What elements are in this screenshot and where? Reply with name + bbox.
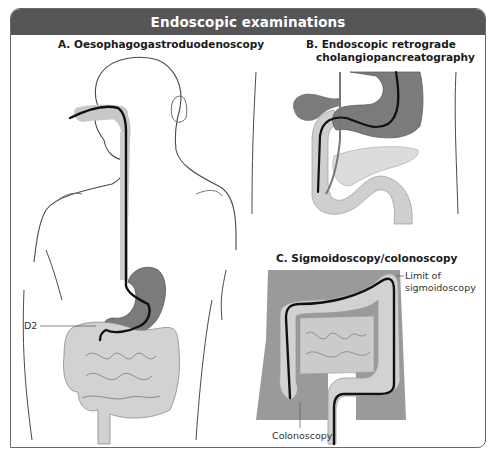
panel-c-title: C. Sigmoidoscopy/colonoscopy (276, 252, 457, 265)
panel-a-illustration (23, 57, 236, 444)
ear (171, 96, 186, 122)
small-and-large-intestine (64, 322, 180, 444)
d2-label: D2 (24, 320, 37, 331)
head-body-outline (95, 57, 236, 250)
limit-label-line1: Limit of (405, 270, 441, 281)
panel-b-title-line1: B. Endoscopic retrograde (306, 38, 456, 51)
flank-left (252, 72, 256, 214)
neck-left-outline (34, 140, 126, 262)
limit-label-line2: sigmoidoscopy (405, 282, 476, 293)
panel-a-title: A. Oesophagogastroduodenoscopy (58, 38, 264, 51)
panel-c-illustration (256, 270, 406, 444)
torso-lines (58, 190, 222, 200)
colonoscopy-label: Colonoscopy (272, 430, 332, 441)
flank-right (455, 72, 458, 214)
anatomy-illustrations (0, 0, 494, 458)
panel-b-title-line2: cholangiopancreatography (316, 51, 475, 64)
panel-b-illustration (252, 72, 458, 224)
small-intestine-c (300, 316, 374, 374)
